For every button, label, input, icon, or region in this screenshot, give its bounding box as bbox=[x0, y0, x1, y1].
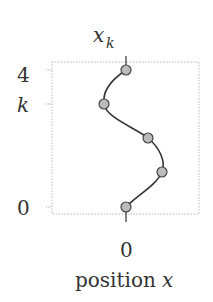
x-axis-label-var: x bbox=[162, 268, 173, 292]
data-point-k2 bbox=[143, 133, 153, 143]
data-point-k1 bbox=[157, 167, 167, 177]
top-label-sub: k bbox=[106, 35, 114, 51]
y-tick-label-0: 0 bbox=[17, 196, 30, 220]
x-axis-label-word: position bbox=[75, 268, 156, 292]
trajectory-curve bbox=[104, 70, 163, 207]
y-axis-label: k bbox=[17, 93, 29, 117]
top-label-var: x bbox=[93, 23, 104, 47]
x-tick-label-0: 0 bbox=[120, 238, 133, 262]
data-point-k0 bbox=[121, 202, 131, 212]
data-point-k4 bbox=[121, 65, 131, 75]
y-tick-label-4: 4 bbox=[17, 63, 30, 87]
chart: x k 4 k 0 0 position x bbox=[0, 0, 213, 302]
data-point-k3 bbox=[99, 99, 109, 109]
plot-frame bbox=[52, 62, 199, 214]
